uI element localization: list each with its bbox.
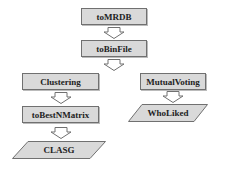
node-tomrdb: toMRDB [81,8,147,25]
down-arrow-icon [103,59,125,71]
node-clustering: Clustering [22,73,99,90]
down-arrow-icon [103,27,125,39]
node-label: toBestNMatrix [32,110,89,120]
node-label: toMRDB [97,12,132,22]
node-clasg: CLASG [12,141,106,159]
down-arrow-icon [50,127,72,139]
node-wholiked: WhoLiked [128,104,208,122]
node-label: CLASG [12,141,106,159]
node-label: MutualVoting [146,77,200,87]
node-label: Clustering [40,77,81,87]
node-mutualvoting: MutualVoting [140,73,206,90]
node-tobestnmatrix: toBestNMatrix [22,106,99,123]
down-arrow-icon [50,92,72,104]
node-label: WhoLiked [128,104,208,122]
node-label: toBinFile [96,44,132,54]
node-tobinfile: toBinFile [81,40,147,57]
down-arrow-icon [162,91,184,103]
